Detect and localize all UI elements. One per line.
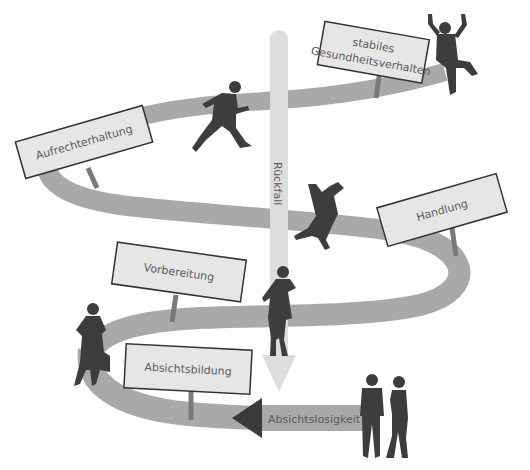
- start-arrow-head: [232, 398, 262, 438]
- behavior-change-spiral-diagram: Rückfall stabiles Gesundheitsverhalten A…: [0, 0, 530, 470]
- sign-aufrechterhaltung: Aufrechterhaltung: [15, 106, 152, 188]
- absichtslosigkeit-label: Absichtslosigkeit: [268, 413, 361, 426]
- relapse-label: Rückfall: [271, 162, 284, 205]
- running-man-silhouette: [192, 81, 252, 152]
- standing-couple-silhouette: [360, 374, 408, 458]
